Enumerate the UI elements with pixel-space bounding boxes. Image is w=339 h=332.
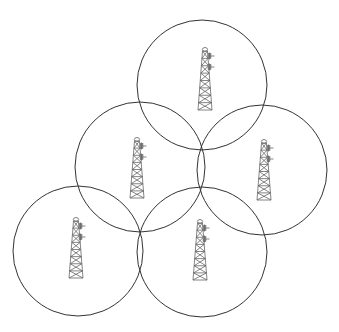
- cell-middle-right: [197, 105, 327, 235]
- coverage-circle: [75, 102, 205, 232]
- cell-top: [137, 20, 267, 150]
- cell-tower-icon: [130, 138, 147, 199]
- cell-tower-icon: [193, 220, 210, 281]
- cell-tower-icon: [198, 48, 215, 111]
- cell-bottom-center: [137, 187, 267, 317]
- diagram-canvas: [0, 0, 339, 332]
- coverage-circle: [197, 105, 327, 235]
- cell-tower-icon: [257, 140, 274, 201]
- cell-coverage-diagram: [0, 0, 339, 332]
- coverage-circle: [137, 20, 267, 150]
- cell-middle-left: [75, 102, 205, 232]
- cell-bottom-left: [13, 186, 143, 316]
- cell-tower-icon: [69, 218, 86, 279]
- coverage-circle: [137, 187, 267, 317]
